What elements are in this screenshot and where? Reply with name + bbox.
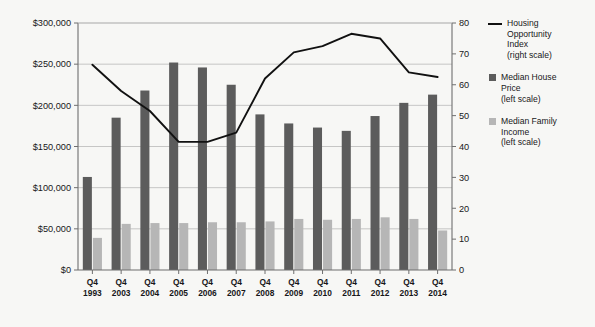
bar-median-house-price [399, 103, 408, 270]
bar-median-house-price [83, 177, 92, 270]
left-axis-tick-label: $50,000 [38, 224, 71, 234]
bar-median-house-price [255, 114, 264, 270]
left-axis-tick-label: $200,000 [33, 101, 71, 111]
bar-median-house-price [227, 85, 236, 270]
left-axis-tick-label: $100,000 [33, 183, 71, 193]
right-axis-tick-label: 0 [459, 265, 464, 275]
bar-median-house-price [371, 116, 380, 270]
legend-item-housing-opportunity-index: Housing Opportunity Index (right scale) [488, 18, 592, 60]
bar-median-house-price [112, 118, 121, 270]
bar-median-family-income [150, 223, 159, 270]
left-axis-tick-label: $0 [61, 265, 71, 275]
bar-median-family-income [266, 221, 275, 270]
bar-median-family-income [179, 223, 188, 270]
bar-median-house-price [313, 128, 322, 270]
legend-line-marker-icon [488, 23, 502, 25]
bar-median-house-price [342, 131, 351, 270]
right-axis-tick-label: 20 [459, 204, 469, 214]
bar-median-family-income [208, 222, 217, 270]
right-axis-tick-label: 30 [459, 173, 469, 183]
legend-label-median-family-income: Median Family Income (left scale) [501, 116, 557, 148]
right-axis-tick-label: 10 [459, 234, 469, 244]
chart-legend: Housing Opportunity Index (right scale) … [488, 18, 592, 160]
legend-square-marker-icon [489, 118, 496, 125]
left-axis-tick-label: $250,000 [33, 59, 71, 69]
bar-median-family-income [409, 219, 418, 270]
bar-median-house-price [284, 123, 293, 270]
legend-square-marker-icon [489, 74, 496, 81]
bar-median-house-price [198, 67, 207, 270]
bar-median-family-income [381, 217, 390, 270]
bar-median-family-income [352, 219, 361, 270]
right-axis-tick-label: 50 [459, 111, 469, 121]
legend-item-median-house-price: Median House Price (left scale) [488, 72, 592, 104]
legend-label-median-house-price: Median House Price (left scale) [501, 72, 556, 104]
bar-median-family-income [294, 219, 303, 270]
bar-median-family-income [323, 220, 332, 270]
bar-median-family-income [438, 230, 447, 270]
bar-median-house-price [428, 95, 437, 270]
right-axis-tick-label: 60 [459, 80, 469, 90]
legend-label-housing-opportunity-index: Housing Opportunity Index (right scale) [507, 18, 552, 60]
right-axis-tick-label: 80 [459, 18, 469, 28]
bar-median-house-price [140, 91, 149, 270]
right-axis-tick-label: 70 [459, 49, 469, 59]
bar-median-family-income [122, 224, 131, 270]
left-axis-tick-label: $150,000 [33, 142, 71, 152]
left-axis-tick-label: $300,000 [33, 18, 71, 28]
bar-median-family-income [237, 222, 246, 270]
chart-container: $0$50,000$100,000$150,000$200,000$250,00… [0, 0, 595, 327]
bar-median-family-income [93, 238, 102, 270]
right-axis-tick-label: 40 [459, 142, 469, 152]
legend-item-median-family-income: Median Family Income (left scale) [488, 116, 592, 148]
bar-median-house-price [169, 63, 178, 270]
